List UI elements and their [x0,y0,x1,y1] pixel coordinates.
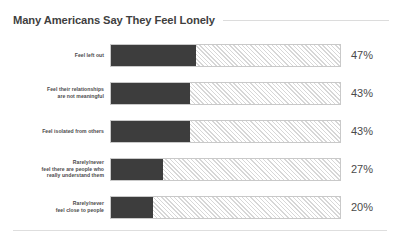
bar-chart-rows: Feel left out 47% Feel their relationshi… [0,36,399,226]
bar-fill [111,197,153,218]
bar-row: Feel isolated from others 43% [0,112,399,150]
bar-row: Rarely/never feel close to people 20% [0,188,399,226]
bar-value-label: 43% [351,87,373,99]
bar-track [110,44,341,67]
chart-figure: Many Americans Say They Feel Lonely Feel… [0,0,399,238]
bar-fill [111,121,190,142]
title-divider [223,20,389,21]
bar-fill [111,83,190,104]
bar-fill [111,159,163,180]
bar-row-label: Feel their relationships are not meaning… [8,86,104,100]
bar-track [110,120,341,143]
bar-row: Rarely/never feel there are people who r… [0,150,399,188]
bar-value-label: 43% [351,125,373,137]
bar-fill [111,45,196,66]
bar-row-label: Feel isolated from others [8,128,104,135]
bar-track [110,196,341,219]
bar-row-label: Rarely/never feel close to people [8,200,104,214]
bar-row: Feel left out 47% [0,36,399,74]
bar-row: Feel their relationships are not meaning… [0,74,399,112]
bar-track [110,158,341,181]
bar-value-label: 27% [351,163,373,175]
chart-header: Many Americans Say They Feel Lonely [13,12,389,28]
bar-track [110,82,341,105]
bottom-divider [13,230,387,231]
page-title: Many Americans Say They Feel Lonely [13,14,215,26]
bar-value-label: 47% [351,49,373,61]
bar-row-label: Rarely/never feel there are people who r… [8,159,104,179]
bar-row-label: Feel left out [8,52,104,59]
bar-value-label: 20% [351,201,373,213]
